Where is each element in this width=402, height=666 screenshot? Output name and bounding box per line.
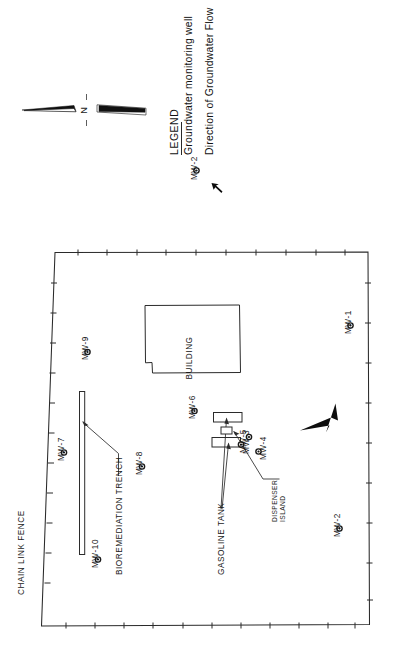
legend-well-description: Groundwater monitoring well [183, 16, 194, 155]
monitoring-well-mw-7: MW-7 [57, 437, 67, 461]
mw-8-label: MW-8 [135, 451, 144, 475]
mw-6-label: MW-6 [188, 395, 197, 419]
mw-5-label: MW-5 [239, 429, 248, 453]
building-label: BUILDING [185, 336, 194, 379]
monitoring-well-mw-2: MW-2 [333, 513, 343, 537]
gasoline-tank-label: GASOLINE TANK [217, 503, 226, 575]
legend-title: LEGEND [169, 109, 180, 155]
mw-1-label: MW-1 [344, 310, 353, 334]
monitoring-well-mw-6: MW-6 [188, 395, 198, 419]
gasoline-tank-2-outline [212, 438, 241, 448]
mw-4-label: MW-4 [259, 436, 268, 460]
legend-well-symbol-label: MW-2 [190, 156, 199, 180]
mw-2-label: MW-2 [333, 513, 342, 537]
chain-link-fence-label: CHAIN LINK FENCE [17, 510, 26, 595]
monitoring-well-mw-8: MW-8 [135, 451, 145, 475]
bioremediation-trench-outline [80, 392, 85, 555]
dispenser-island-outline [221, 427, 232, 434]
monitoring-well-mw-1: MW-1 [344, 310, 354, 334]
legend-flow-description: Direction of Groundwater Flow [204, 7, 215, 155]
mw-7-label: MW-7 [57, 437, 66, 461]
mw-10-label: MW-10 [91, 539, 100, 568]
monitoring-well-mw-5: MW-5 [238, 429, 248, 453]
monitoring-well-mw-9: MW-9 [81, 336, 91, 360]
site-plan-drawing: N LEGEND MW-2 Groundwater monitoring wel… [0, 0, 402, 666]
gasoline-tank-1-outline [214, 413, 243, 423]
north-arrow-label: N [79, 106, 89, 113]
dispenser-island-label-line2: ISLAND [279, 495, 286, 522]
site-plan-figure: N LEGEND MW-2 Groundwater monitoring wel… [0, 0, 402, 666]
dispenser-island-label-line1: DISPENSER [271, 480, 278, 522]
bioremediation-trench-label: BIOREMEDIATION TRENCH [115, 457, 124, 575]
mw-9-label: MW-9 [81, 336, 90, 360]
monitoring-well-mw-10: MW-10 [91, 539, 101, 568]
